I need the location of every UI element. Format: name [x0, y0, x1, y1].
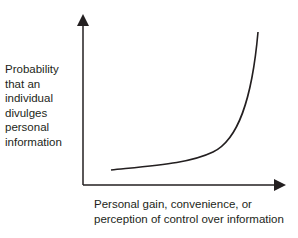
data-curve	[111, 32, 258, 170]
y-axis-label: Probability that an individual divulges …	[5, 62, 81, 149]
x-label-line: Personal gain, convenience, or	[94, 197, 294, 212]
y-label-line: individual	[5, 91, 81, 106]
x-axis-label: Personal gain, convenience, or perceptio…	[94, 197, 294, 227]
y-label-line: Probability	[5, 62, 81, 77]
y-label-line: divulges	[5, 106, 81, 121]
y-label-line: personal	[5, 120, 81, 135]
y-label-line: information	[5, 135, 81, 150]
x-label-line: perception of control over information	[94, 212, 294, 227]
y-label-line: that an	[5, 77, 81, 92]
